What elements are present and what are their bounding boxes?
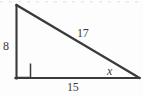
label-hypotenuse: 17 xyxy=(77,27,89,39)
right-angle-marker-icon xyxy=(17,64,31,78)
right-triangle-figure: 8 17 x 15 xyxy=(0,0,143,96)
triangle-side-hypotenuse xyxy=(17,5,140,78)
label-horizontal-leg: 15 xyxy=(67,81,79,93)
label-vertical-leg: 8 xyxy=(3,40,9,52)
label-unknown-angle: x xyxy=(107,65,112,77)
